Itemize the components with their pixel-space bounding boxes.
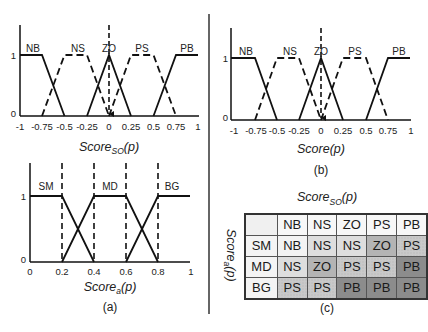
table-cell: PB xyxy=(367,278,397,300)
table-row: MD NS ZO PS PS PB xyxy=(245,257,427,278)
x-axis-title: ScoreSO(p) xyxy=(79,140,139,156)
set-label-pb: PB xyxy=(180,43,194,54)
x-axis-title: Scorea(p) xyxy=(84,280,137,296)
table-cell: PS xyxy=(277,278,307,300)
x-tick: 0 xyxy=(318,125,323,136)
x-tick: 0.4 xyxy=(87,266,100,277)
x-tick: 1 xyxy=(188,266,193,277)
set-label-ps: PS xyxy=(135,43,149,54)
table-cell: PS xyxy=(367,257,397,278)
title-sub: SO xyxy=(330,197,342,207)
row-header: BG xyxy=(245,278,277,300)
x-tick: -0.25 xyxy=(76,121,98,132)
x-tick: -1 xyxy=(230,125,238,136)
title-main: Score xyxy=(224,229,238,262)
row-header: MD xyxy=(245,257,277,278)
title-main: Score xyxy=(297,190,330,204)
chart-score-a: 1 0 SM MD BG 0 0.2 0.4 0.6 0.8 1 Scorea(… xyxy=(21,163,194,314)
table-cell: PB xyxy=(337,278,367,300)
x-tick: 0.75 xyxy=(379,125,398,136)
set-label-md: MD xyxy=(102,181,118,192)
x-tick: 0 xyxy=(27,266,32,277)
table-header-row: NB NS ZO PS PB xyxy=(245,214,427,236)
column-header: PB xyxy=(397,214,427,236)
x-tick: 0.75 xyxy=(167,121,186,132)
title-tail: (p) xyxy=(224,266,238,281)
x-axis-title: Score(p) xyxy=(297,142,345,156)
x-tick: -0.25 xyxy=(288,125,310,136)
x-tick: 0 xyxy=(106,121,111,132)
x-tick: 1 xyxy=(195,121,200,132)
set-label-zo: ZO xyxy=(314,46,328,57)
x-tick: -1 xyxy=(16,121,24,132)
table-cell: PS xyxy=(397,236,427,257)
table-corner xyxy=(245,214,277,236)
set-label-pb: PB xyxy=(392,46,406,57)
column-header: NS xyxy=(307,214,337,236)
y-tick-1: 1 xyxy=(223,53,228,64)
y-tick-1: 1 xyxy=(11,50,16,61)
y-tick-0: 0 xyxy=(11,108,16,119)
table-cell: PB xyxy=(397,257,427,278)
set-label-bg: BG xyxy=(165,181,180,192)
y-tick-1: 1 xyxy=(21,191,26,202)
table-row-title: Scorea(p) xyxy=(222,225,239,285)
caption-a: (a) xyxy=(103,300,118,314)
set-label-nb: NB xyxy=(26,43,40,54)
set-label-ps: PS xyxy=(348,46,362,57)
table-cell: NS xyxy=(307,236,337,257)
x-tick: 0.6 xyxy=(119,266,132,277)
chart-score-so: 1 0 NB NS ZO PS PB -1 -0.75 -0.5 -0.25 0… xyxy=(11,25,201,156)
set-label-ns: NS xyxy=(283,46,297,57)
set-label-zo: ZO xyxy=(102,43,116,54)
table-cell: NS xyxy=(337,236,367,257)
y-tick-0: 0 xyxy=(21,254,26,265)
set-label-nb: NB xyxy=(239,46,253,57)
caption-c: (c) xyxy=(244,301,410,315)
x-tick: 0.25 xyxy=(334,125,353,136)
table-row: BG PS PS PB PB PB xyxy=(245,278,427,300)
table-cell: ZO xyxy=(367,236,397,257)
x-tick: 1 xyxy=(408,125,413,136)
set-label-ns: NS xyxy=(71,43,85,54)
chart-score: 1 0 NB NS ZO PS PB -1 -0.75 -0.5 -0.25 0… xyxy=(223,28,414,177)
x-tick: 0.5 xyxy=(359,125,372,136)
y-tick-0: 0 xyxy=(223,112,228,123)
table-cell: NB xyxy=(277,236,307,257)
table-row: SM NB NS NS ZO PS xyxy=(245,236,427,257)
table-cell: ZO xyxy=(307,257,337,278)
row-header: SM xyxy=(245,236,277,257)
x-tick: -0.75 xyxy=(245,125,267,136)
column-header: PS xyxy=(367,214,397,236)
caption-b: (b) xyxy=(314,163,329,177)
x-tick: -0.5 xyxy=(269,125,285,136)
x-tick: 0.8 xyxy=(151,266,164,277)
table-cell: PS xyxy=(307,278,337,300)
column-header: NB xyxy=(277,214,307,236)
fuzzy-rule-table: NB NS ZO PS PB SM NB NS NS ZO PS MD NS Z… xyxy=(244,213,428,300)
table-column-title: ScoreSO(p) xyxy=(244,190,410,207)
title-tail: (p) xyxy=(342,190,357,204)
x-tick: -0.75 xyxy=(31,121,53,132)
x-tick: -0.5 xyxy=(56,121,72,132)
column-header: ZO xyxy=(337,214,367,236)
x-ticks: -1 -0.75 -0.5 -0.25 0 0.25 0.5 0.75 1 xyxy=(16,121,201,132)
table-cell: PS xyxy=(337,257,367,278)
x-tick: 0.25 xyxy=(122,121,141,132)
table-cell: NS xyxy=(277,257,307,278)
x-tick: 0.2 xyxy=(55,266,68,277)
table-cell: PB xyxy=(397,278,427,300)
x-tick: 0.5 xyxy=(147,121,160,132)
set-label-sm: SM xyxy=(39,181,54,192)
